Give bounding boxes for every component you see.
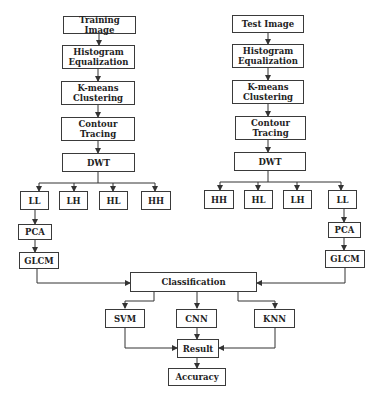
left-pca-box: PCA (18, 224, 52, 240)
right-glcm-label: GLCM (330, 254, 359, 264)
left-kmeans-clustering-box: K-means Clustering (61, 81, 135, 105)
right-subband-hl-label: HL (251, 195, 265, 205)
test-image-label: Test Image (242, 19, 294, 29)
left-contour-label-2: Tracing (80, 129, 116, 139)
left-kmeans-label-2: Clustering (73, 93, 123, 103)
cnn-box: CNN (176, 309, 217, 328)
left-subband-ll-label: LL (29, 196, 41, 206)
right-subband-ll-box: LL (328, 190, 357, 209)
training-image-label: Training Image (64, 15, 135, 35)
left-histogram-equalization-box: Histogram Equalization (62, 45, 135, 69)
result-box: Result (177, 339, 219, 358)
right-subband-ll-label: LL (337, 195, 349, 205)
training-image-box: Training Image (63, 16, 136, 34)
classification-box: Classification (130, 272, 257, 292)
right-contour-label-1: Contour (251, 118, 290, 128)
left-dwt-label: DWT (87, 158, 110, 168)
right-kmeans-label-2: Clustering (243, 92, 293, 102)
right-pca-box: PCA (328, 222, 361, 238)
classification-label: Classification (161, 277, 225, 287)
right-histogram-label-1: Histogram (243, 46, 294, 56)
test-image-box: Test Image (232, 15, 304, 33)
right-subband-hl-box: HL (244, 190, 273, 209)
accuracy-box: Accuracy (168, 368, 226, 386)
left-histogram-label-1: Histogram (73, 47, 124, 57)
result-label: Result (183, 344, 214, 354)
cnn-label: CNN (185, 314, 207, 324)
knn-label: KNN (263, 314, 286, 324)
right-subband-hh-label: HH (211, 195, 227, 205)
svm-label: SVM (114, 314, 136, 324)
left-dwt-box: DWT (62, 153, 135, 172)
svm-box: SVM (105, 309, 145, 328)
right-subband-lh-box: LH (283, 190, 312, 209)
left-subband-lh-box: LH (59, 191, 88, 210)
left-subband-hl-box: HL (99, 191, 128, 210)
left-kmeans-label-1: K-means (77, 83, 118, 93)
right-glcm-box: GLCM (325, 250, 365, 268)
left-glcm-label: GLCM (24, 256, 53, 266)
left-subband-hh-label: HH (148, 196, 164, 206)
right-kmeans-clustering-box: K-means Clustering (232, 80, 304, 104)
left-glcm-box: GLCM (19, 252, 59, 269)
left-subband-lh-label: LH (66, 196, 80, 206)
left-contour-tracing-box: Contour Tracing (61, 117, 135, 141)
right-contour-label-2: Tracing (252, 128, 288, 138)
left-subband-hl-label: HL (106, 196, 120, 206)
right-contour-tracing-box: Contour Tracing (235, 116, 306, 140)
right-subband-lh-label: LH (290, 195, 304, 205)
right-dwt-box: DWT (234, 152, 306, 171)
left-pca-label: PCA (25, 227, 45, 237)
left-subband-hh-box: HH (141, 191, 171, 210)
right-dwt-label: DWT (258, 157, 281, 167)
right-subband-hh-box: HH (204, 190, 234, 209)
right-histogram-label-2: Equalization (238, 56, 298, 66)
flowchart-canvas: Training Image Histogram Equalization K-… (0, 0, 380, 402)
knn-box: KNN (254, 309, 295, 328)
right-histogram-equalization-box: Histogram Equalization (232, 44, 304, 68)
left-subband-ll-box: LL (20, 191, 49, 210)
right-pca-label: PCA (335, 225, 355, 235)
right-kmeans-label-1: K-means (247, 82, 288, 92)
left-contour-label-1: Contour (79, 119, 118, 129)
accuracy-label: Accuracy (175, 372, 218, 382)
left-histogram-label-2: Equalization (69, 57, 129, 67)
